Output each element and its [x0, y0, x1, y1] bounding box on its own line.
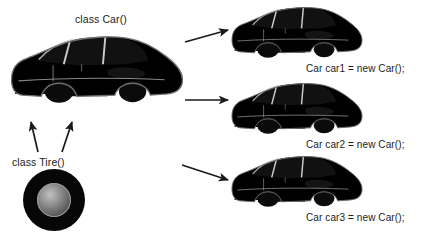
instance-2-label: Car car2 = new Car(); — [306, 139, 405, 150]
composition-arrows — [31, 122, 72, 152]
diagram-graphics — [0, 0, 426, 238]
instance-car-2-illustration — [232, 83, 362, 133]
class-tire-label: class Tire() — [12, 156, 65, 168]
instantiation-arrows — [182, 30, 228, 180]
instance-3-label: Car car3 = new Car(); — [306, 212, 405, 223]
car-to-instance-3-arrow — [182, 165, 228, 180]
tire-to-car-arrow-right — [62, 122, 72, 152]
car-to-instance-1-arrow — [185, 30, 228, 42]
class-car-illustration — [12, 37, 183, 103]
tire-to-car-arrow-left — [31, 122, 38, 152]
instance-1-label: Car car1 = new Car(); — [306, 63, 405, 74]
instance-car-3-illustration — [232, 156, 362, 206]
class-tire-illustration — [23, 169, 85, 231]
diagram-canvas: class Car() class Tire() Car car1 = new … — [0, 0, 426, 238]
instance-car-1-illustration — [232, 7, 362, 57]
class-car-label: class Car() — [75, 13, 127, 25]
